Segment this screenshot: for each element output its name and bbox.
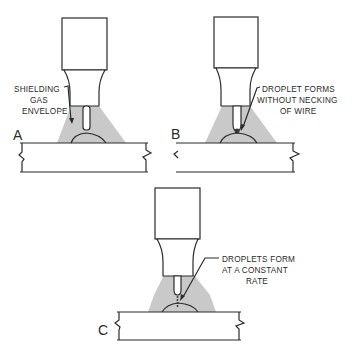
panel-label-a: A bbox=[13, 127, 23, 143]
annotation-line-2: GAS bbox=[30, 96, 48, 105]
annotation-line-2: AT A CONSTANT bbox=[222, 266, 288, 275]
shielding-gas-envelope-c bbox=[148, 275, 216, 312]
base-plate-b bbox=[174, 143, 299, 172]
panel-a: A SHIELDING GAS ENVELOPE bbox=[13, 18, 151, 172]
welding-gun-nozzle-b bbox=[214, 17, 258, 106]
annotation-line-1: SHIELDING bbox=[14, 85, 60, 94]
base-plate-c bbox=[115, 312, 244, 340]
base-plate-a bbox=[19, 143, 151, 172]
electrode-wire-b bbox=[233, 106, 241, 131]
electrode-wire-c bbox=[174, 276, 181, 295]
annotation-line-3: ENVELOPE bbox=[22, 107, 68, 116]
panel-c: C DROPLETS FORM AT A CONSTANT RATE bbox=[98, 188, 295, 340]
annotation-line-1: DROPLETS FORM bbox=[222, 255, 295, 264]
annotation-shielding-gas: SHIELDING GAS ENVELOPE bbox=[14, 85, 74, 124]
panel-b: B DROPLET FORMS WITHOUT NECKING OF WIRE bbox=[171, 17, 338, 172]
panel-label-b: B bbox=[171, 126, 180, 142]
annotation-line-3: OF WIRE bbox=[280, 107, 317, 116]
electrode-wire-a bbox=[83, 106, 90, 130]
annotation-line-3: RATE bbox=[246, 277, 268, 286]
welding-gun-nozzle-c bbox=[155, 188, 200, 276]
annotation-line-1: DROPLET FORMS bbox=[262, 85, 335, 94]
welding-transfer-diagram: A SHIELDING GAS ENVELOPE B DROPLET FORMS… bbox=[0, 0, 352, 355]
annotation-line-2: WITHOUT NECKING bbox=[257, 96, 338, 105]
panel-label-c: C bbox=[98, 322, 108, 338]
